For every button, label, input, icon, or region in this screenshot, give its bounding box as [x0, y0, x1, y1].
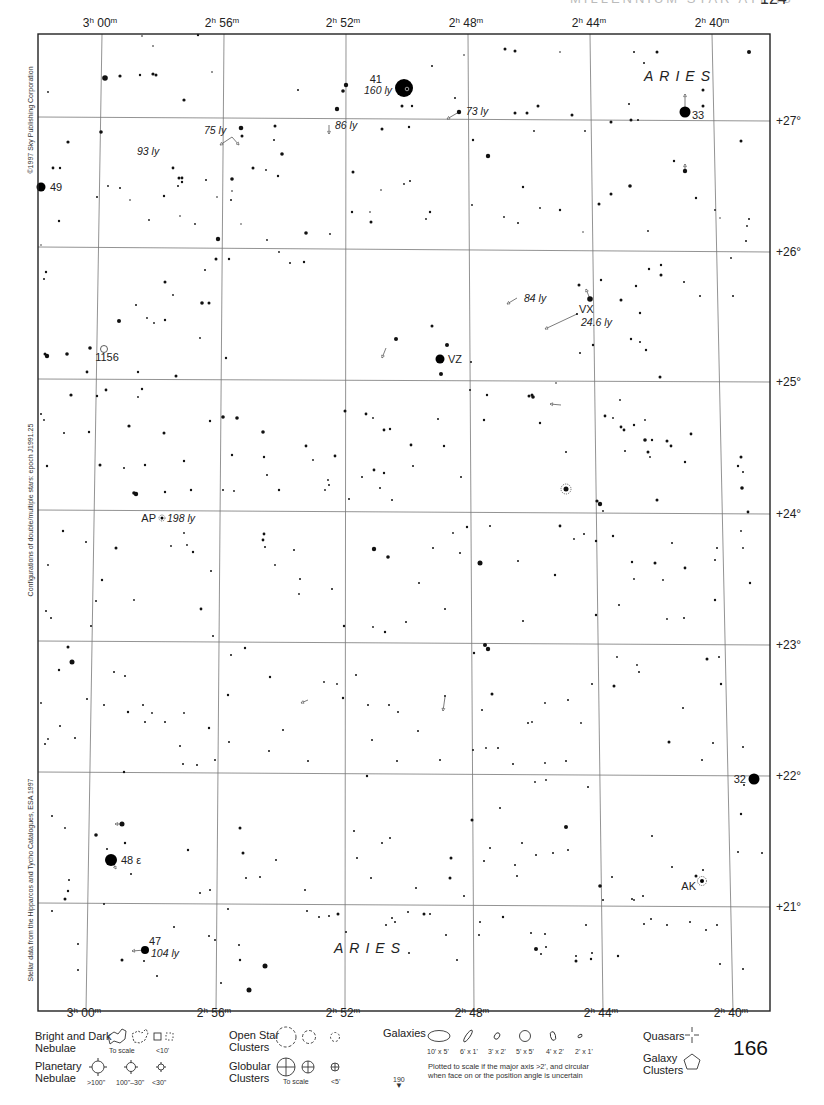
star: [648, 268, 650, 270]
star: [656, 51, 659, 54]
star: [204, 269, 206, 271]
star: [701, 759, 703, 761]
legend-globular-small: <5': [331, 1078, 340, 1085]
star: [611, 876, 613, 878]
star: [187, 849, 189, 851]
ra-label: 2h 40m: [714, 1006, 749, 1020]
star: [183, 532, 185, 534]
star: [190, 489, 192, 491]
star: [155, 74, 158, 77]
star: [265, 169, 267, 171]
labeled-star: [700, 879, 704, 883]
star: [389, 837, 391, 839]
star: [51, 815, 53, 817]
star: [227, 908, 229, 910]
star: [537, 105, 540, 108]
dec-label: +27°: [776, 114, 801, 128]
star: [208, 727, 210, 729]
star: [517, 560, 519, 562]
star: [304, 889, 306, 891]
star: [144, 464, 146, 466]
star: [227, 694, 229, 696]
star: [497, 747, 499, 749]
star: [545, 946, 547, 948]
star: [580, 722, 582, 724]
star: [407, 911, 409, 913]
legend-galaxies-label: Galaxies: [383, 1027, 426, 1039]
arrowhead: [301, 701, 304, 704]
star: [410, 444, 413, 447]
star: [361, 476, 363, 478]
star: [486, 154, 490, 158]
ra-label: 2h 56m: [205, 16, 240, 30]
star: [50, 617, 52, 619]
star: [408, 952, 410, 954]
star: [263, 964, 268, 969]
credit-text: Stellar data from the Hipparcos and Tych…: [27, 778, 35, 981]
labeled-star: [436, 355, 445, 364]
star: [192, 551, 194, 553]
star: [137, 371, 139, 373]
star: [445, 934, 447, 936]
star: [352, 171, 355, 174]
star: [341, 89, 345, 93]
star: [141, 388, 143, 390]
star: [584, 130, 586, 132]
star: [152, 45, 154, 47]
star: [483, 643, 487, 647]
ra-label: 3h 00m: [83, 16, 118, 30]
arrowhead: [220, 142, 223, 145]
star: [85, 541, 87, 543]
adjacent-page-link[interactable]: 190 ▼: [393, 1076, 405, 1089]
star: [517, 222, 519, 224]
star: [595, 614, 597, 616]
star: [651, 439, 653, 441]
star: [119, 187, 121, 189]
star: [231, 454, 233, 456]
legend-planetary-label: Planetary Nebulae: [35, 1060, 81, 1084]
dec-gridline: [38, 117, 770, 121]
ra-label: 2h 52m: [326, 16, 361, 30]
star: [740, 486, 744, 490]
star: [600, 279, 602, 281]
star: [660, 264, 662, 266]
quasar-icon: [684, 1026, 700, 1044]
star: [334, 455, 337, 458]
star: [303, 261, 305, 263]
star: [172, 294, 174, 296]
star: [183, 712, 185, 714]
star: [522, 620, 524, 622]
star: [559, 525, 562, 528]
ra-label: 2h 48m: [449, 16, 484, 30]
star: [365, 413, 368, 416]
star: [554, 574, 556, 576]
star: [228, 258, 230, 260]
star: [564, 825, 568, 829]
star: [262, 539, 265, 542]
star: [514, 50, 517, 53]
legend-globular-label: Globular Clusters: [229, 1060, 271, 1084]
star-name-label: AP: [141, 512, 156, 524]
star: [117, 319, 121, 323]
star: [706, 658, 709, 661]
star: [631, 561, 633, 563]
star: [214, 939, 216, 941]
star: [654, 562, 657, 565]
star: [96, 196, 98, 198]
star: [714, 209, 716, 211]
star: [683, 617, 685, 619]
star: [208, 935, 210, 937]
star: [280, 152, 284, 156]
star-name-label: 47: [149, 935, 161, 947]
star: [384, 631, 386, 633]
star: [230, 177, 234, 181]
labeled-star: [161, 517, 164, 520]
down-arrow-icon: ▼: [393, 1083, 405, 1089]
star: [123, 467, 125, 469]
star: [123, 771, 125, 773]
star: [742, 746, 744, 748]
arrowhead: [545, 327, 548, 330]
star: [134, 492, 138, 496]
star: [64, 898, 67, 901]
star: [293, 549, 295, 551]
